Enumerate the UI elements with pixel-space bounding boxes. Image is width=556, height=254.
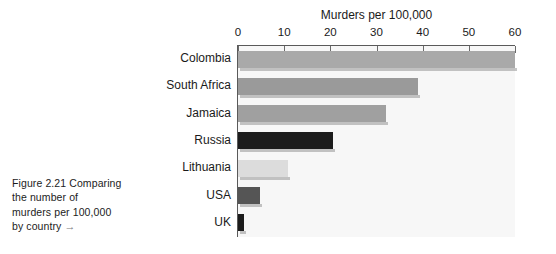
category-label: UK bbox=[214, 215, 231, 229]
bar-row: USA bbox=[238, 184, 515, 211]
bar-row: Russia bbox=[238, 129, 515, 156]
x-axis-title: Murders per 100,000 bbox=[238, 8, 515, 22]
category-label: Russia bbox=[194, 133, 231, 147]
bar-shadow bbox=[240, 68, 517, 71]
figure-caption: Figure 2.21 Comparing the number of murd… bbox=[12, 176, 172, 234]
category-label: Lithuania bbox=[182, 160, 231, 174]
bar-row: Jamaica bbox=[238, 102, 515, 129]
x-tick-label: 20 bbox=[324, 26, 337, 38]
x-tick-mark bbox=[515, 46, 516, 53]
x-tick-label: 40 bbox=[416, 26, 429, 38]
caption-line-3: murders per 100,000 bbox=[12, 205, 172, 219]
bar-russia bbox=[238, 132, 333, 149]
bar-lithuania bbox=[238, 160, 288, 177]
figure-container: Figure 2.21 Comparing the number of murd… bbox=[0, 0, 556, 254]
bar-colombia bbox=[238, 51, 515, 68]
bar-row: Colombia bbox=[238, 47, 515, 74]
x-tick-label: 50 bbox=[462, 26, 475, 38]
bar-shadow bbox=[240, 177, 290, 180]
bar-shadow bbox=[240, 231, 246, 234]
bar-chart: Murders per 100,000 0102030405060 Colomb… bbox=[238, 46, 515, 237]
bar-shadow bbox=[240, 122, 388, 125]
caption-line-4: by country → bbox=[12, 219, 172, 233]
bar-south-africa bbox=[238, 78, 418, 95]
caption-arrow-icon: → bbox=[64, 220, 75, 232]
bar-shadow bbox=[240, 149, 335, 152]
x-tick-label: 30 bbox=[370, 26, 383, 38]
caption-line-2: the number of bbox=[12, 190, 172, 204]
x-tick-label: 60 bbox=[509, 26, 522, 38]
caption-line-1: Figure 2.21 Comparing bbox=[12, 176, 172, 190]
bar-row: Lithuania bbox=[238, 156, 515, 183]
category-label: USA bbox=[206, 188, 231, 202]
category-label: Jamaica bbox=[186, 106, 231, 120]
bar-row: South Africa bbox=[238, 74, 515, 101]
bar-uk bbox=[238, 214, 244, 231]
category-label: South Africa bbox=[166, 78, 231, 92]
caption-line-4-text: by country bbox=[12, 220, 61, 232]
category-label: Colombia bbox=[180, 51, 231, 65]
bar-shadow bbox=[240, 204, 262, 207]
bar-jamaica bbox=[238, 105, 386, 122]
bar-row: UK bbox=[238, 211, 515, 238]
x-tick-label: 0 bbox=[235, 26, 241, 38]
x-tick-label: 10 bbox=[278, 26, 291, 38]
bar-usa bbox=[238, 187, 260, 204]
bar-shadow bbox=[240, 95, 420, 98]
